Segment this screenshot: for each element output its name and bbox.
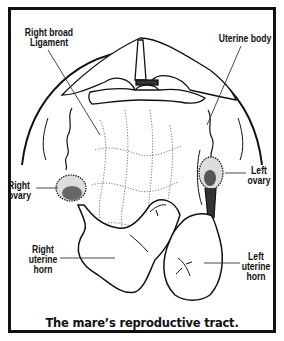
label-right-ovary: Right ovary [8, 181, 32, 201]
pelvis-spine [62, 38, 236, 104]
figure-caption: The mare’s reproductive tract. [0, 316, 284, 330]
label-left-ovary: Left ovary [246, 166, 272, 186]
left-ovary [199, 110, 223, 218]
label-uterine-body: Uterine body [215, 34, 275, 44]
label-right-broad-ligament: Right broad Ligament [19, 28, 79, 48]
label-right-uterine-horn: Right uterine horn [25, 245, 61, 275]
right-ovary [56, 108, 86, 201]
label-left-uterine-horn: Left uterine horn [241, 252, 272, 282]
reproductive-tract-illustration [0, 0, 284, 341]
